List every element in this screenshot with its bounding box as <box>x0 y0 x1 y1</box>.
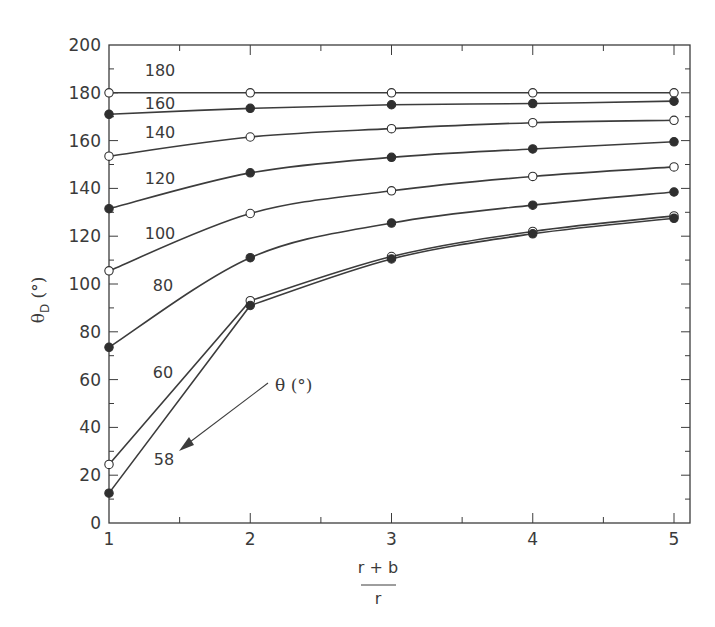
x-tick-label: 5 <box>669 529 680 549</box>
curve-label-180: 180 <box>145 61 176 80</box>
marker-120-filled <box>670 138 678 146</box>
y-axis-label: θD (°) <box>28 277 52 324</box>
y-tick-label: 100 <box>69 274 101 294</box>
y-tick-label: 160 <box>69 131 101 151</box>
marker-80-filled <box>670 188 678 196</box>
marker-80-filled <box>387 219 395 227</box>
marker-120-filled <box>246 169 254 177</box>
x-axis-label-numerator: r + b <box>358 558 398 577</box>
y-tick-label: 80 <box>79 322 101 342</box>
marker-120-filled <box>105 205 113 213</box>
marker-140-open <box>105 152 113 160</box>
x-tick-label: 2 <box>245 529 256 549</box>
marker-58-filled <box>105 489 113 497</box>
marker-58-filled <box>387 255 395 263</box>
marker-140-open <box>387 124 395 132</box>
y-tick-label: 140 <box>69 178 101 198</box>
marker-160-filled <box>105 110 113 118</box>
marker-100-open <box>246 209 254 217</box>
chart: 02040608010012014016018020012345r + brθD… <box>0 0 715 627</box>
curve-80 <box>109 192 674 347</box>
marker-80-filled <box>246 254 254 262</box>
marker-120-filled <box>387 153 395 161</box>
marker-180-open <box>105 89 113 97</box>
marker-100-open <box>105 267 113 275</box>
marker-120-filled <box>529 145 537 153</box>
x-axis-label-denominator: r <box>375 589 382 608</box>
y-tick-label: 0 <box>90 513 101 533</box>
marker-100-open <box>529 172 537 180</box>
marker-58-filled <box>529 230 537 238</box>
plot-frame <box>109 45 690 523</box>
x-tick-label: 4 <box>527 529 538 549</box>
annotation-arrowhead-icon <box>179 437 194 451</box>
curve-label-160: 160 <box>145 94 176 113</box>
curve-label-100: 100 <box>145 224 176 243</box>
marker-180-open <box>529 89 537 97</box>
curve-label-58: 58 <box>154 450 174 469</box>
marker-140-open <box>246 133 254 141</box>
marker-140-open <box>670 116 678 124</box>
y-tick-label: 120 <box>69 226 101 246</box>
annotation-arrow-line <box>186 383 268 445</box>
marker-80-filled <box>105 343 113 351</box>
marker-160-filled <box>529 99 537 107</box>
curve-label-60: 60 <box>153 363 173 382</box>
marker-100-open <box>670 163 678 171</box>
marker-180-open <box>387 89 395 97</box>
marker-58-filled <box>246 301 254 309</box>
curve-120 <box>109 142 674 209</box>
x-tick-label: 1 <box>104 529 115 549</box>
marker-58-filled <box>670 214 678 222</box>
marker-160-filled <box>670 97 678 105</box>
marker-160-filled <box>246 104 254 112</box>
curve-label-80: 80 <box>153 276 173 295</box>
curve-label-120: 120 <box>145 169 176 188</box>
y-tick-label: 40 <box>79 417 101 437</box>
y-tick-label: 200 <box>69 35 101 55</box>
y-tick-label: 20 <box>79 465 101 485</box>
marker-180-open <box>246 89 254 97</box>
marker-60-open <box>105 460 113 468</box>
marker-100-open <box>387 187 395 195</box>
x-tick-label: 3 <box>386 529 397 549</box>
curve-label-140: 140 <box>145 123 176 142</box>
y-tick-label: 60 <box>79 370 101 390</box>
marker-80-filled <box>529 201 537 209</box>
marker-140-open <box>529 118 537 126</box>
marker-160-filled <box>387 101 395 109</box>
marker-180-open <box>670 89 678 97</box>
y-tick-label: 180 <box>69 83 101 103</box>
annotation-theta-label: θ (°) <box>275 375 312 395</box>
